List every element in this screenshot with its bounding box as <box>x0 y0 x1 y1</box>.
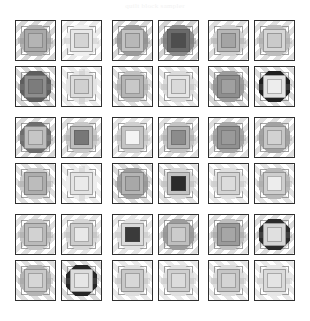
inner-square <box>267 176 282 191</box>
quilt-tile-r4c6 <box>254 163 295 204</box>
quilt-tile-r2c5 <box>208 66 249 107</box>
quilt-tile-r1c5 <box>208 20 249 61</box>
inner-square <box>28 273 43 288</box>
inner-square <box>74 79 89 94</box>
quilt-tile-r5c4 <box>158 214 199 255</box>
quilt-tile-r2c2 <box>61 66 102 107</box>
inner-square <box>125 176 140 191</box>
inner-square <box>28 79 43 94</box>
quilt-tile-r1c6 <box>254 20 295 61</box>
quilt-tile-r5c5 <box>208 214 249 255</box>
inner-square <box>221 227 236 242</box>
inner-square <box>221 79 236 94</box>
inner-square <box>74 33 89 48</box>
quilt-tile-r1c3 <box>112 20 153 61</box>
quilt-tile-r3c5 <box>208 117 249 158</box>
inner-square <box>28 176 43 191</box>
inner-square <box>125 273 140 288</box>
quilt-tile-r3c1 <box>15 117 56 158</box>
caption-strip: quilt block sampler <box>0 0 310 12</box>
quilt-tile-r5c2 <box>61 214 102 255</box>
quilt-tile-r3c3 <box>112 117 153 158</box>
quilt-tile-r2c3 <box>112 66 153 107</box>
quilt-tile-r4c4 <box>158 163 199 204</box>
inner-square <box>28 33 43 48</box>
inner-square <box>171 33 186 48</box>
inner-square <box>125 33 140 48</box>
quilt-tile-r6c4 <box>158 260 199 301</box>
quilt-tile-r1c4 <box>158 20 199 61</box>
quilt-tile-r1c1 <box>15 20 56 61</box>
quilt-tile-r6c5 <box>208 260 249 301</box>
inner-square <box>28 227 43 242</box>
quilt-tile-r5c1 <box>15 214 56 255</box>
quilt-tile-r4c2 <box>61 163 102 204</box>
inner-square <box>267 33 282 48</box>
inner-square <box>171 79 186 94</box>
inner-square <box>221 273 236 288</box>
quilt-tile-r1c2 <box>61 20 102 61</box>
quilt-tile-r4c5 <box>208 163 249 204</box>
inner-square <box>125 227 140 242</box>
inner-square <box>74 227 89 242</box>
inner-square <box>125 130 140 145</box>
quilt-tile-r6c1 <box>15 260 56 301</box>
quilt-tile-r3c2 <box>61 117 102 158</box>
quilt-tile-r5c3 <box>112 214 153 255</box>
inner-square <box>171 176 186 191</box>
quilt-tile-r6c6 <box>254 260 295 301</box>
quilt-tile-r5c6 <box>254 214 295 255</box>
quilt-tile-r4c3 <box>112 163 153 204</box>
quilt-tile-r6c3 <box>112 260 153 301</box>
quilt-tile-r3c4 <box>158 117 199 158</box>
inner-square <box>125 79 140 94</box>
inner-square <box>221 33 236 48</box>
inner-square <box>267 227 282 242</box>
quilt-tile-r2c6 <box>254 66 295 107</box>
inner-square <box>267 79 282 94</box>
inner-square <box>74 130 89 145</box>
inner-square <box>267 273 282 288</box>
inner-square <box>171 273 186 288</box>
inner-square <box>74 273 89 288</box>
inner-square <box>221 176 236 191</box>
quilt-tile-r3c6 <box>254 117 295 158</box>
quilt-tile-r2c4 <box>158 66 199 107</box>
inner-square <box>267 130 282 145</box>
inner-square <box>221 130 236 145</box>
inner-square <box>171 130 186 145</box>
tile-grid <box>0 14 310 319</box>
inner-square <box>74 176 89 191</box>
inner-square <box>171 227 186 242</box>
quilt-tile-r2c1 <box>15 66 56 107</box>
quilt-tile-r4c1 <box>15 163 56 204</box>
quilt-tile-r6c2 <box>61 260 102 301</box>
inner-square <box>28 130 43 145</box>
